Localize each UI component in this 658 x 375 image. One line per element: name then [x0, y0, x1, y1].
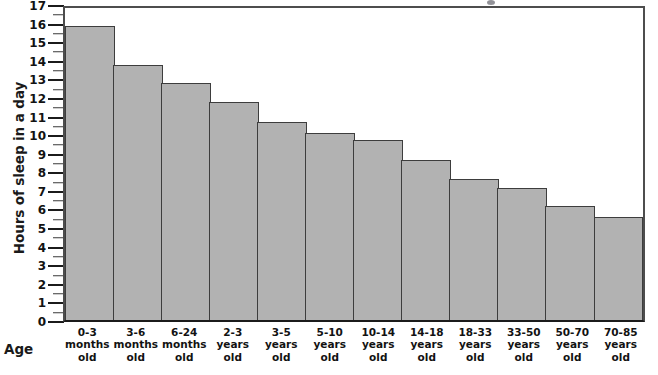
x-axis-category-label: 3-5yearsold	[257, 326, 306, 363]
x-axis-label-line: old	[258, 351, 305, 363]
x-axis-label-line: 70-85	[598, 326, 645, 338]
x-axis-label-line: 5-10	[307, 326, 354, 338]
x-axis-category-label: 0-3monthsold	[63, 326, 112, 363]
x-axis-category-label: 2-3yearsold	[209, 326, 258, 363]
x-axis-label-line: 6-24	[161, 326, 208, 338]
x-axis-label-line: 10-14	[355, 326, 402, 338]
y-axis-tick-label: 8	[24, 167, 46, 179]
x-axis-label-line: 2-3	[210, 326, 257, 338]
x-axis-label-line: 3-6	[113, 326, 160, 338]
y-axis-tick-label: 5	[24, 223, 46, 235]
y-axis-major-tick	[48, 265, 64, 267]
x-axis-label-line: years	[404, 338, 451, 350]
bar	[594, 217, 644, 320]
y-axis-major-tick	[48, 172, 64, 174]
y-axis-major-tick	[48, 321, 64, 323]
y-axis-major-tick	[48, 135, 64, 137]
x-axis-label-line: months	[64, 338, 111, 350]
y-axis-tick-label: 7	[24, 186, 46, 198]
x-axis-label-line: old	[307, 351, 354, 363]
bar	[353, 140, 403, 320]
cropped-title-artifact	[487, 0, 495, 5]
x-axis-label-line: years	[210, 338, 257, 350]
y-axis-major-tick	[48, 209, 64, 211]
bar	[305, 133, 355, 320]
x-axis-label-line: 18-33	[452, 326, 499, 338]
x-axis-label-line: old	[113, 351, 160, 363]
bar	[497, 188, 547, 320]
x-axis-label-line: old	[210, 351, 257, 363]
bar	[449, 179, 499, 320]
bar	[161, 83, 211, 320]
y-axis-tick-label: 13	[24, 74, 46, 86]
y-axis-tick-label: 16	[24, 19, 46, 31]
y-axis-major-tick	[48, 5, 64, 7]
y-axis-major-tick	[48, 98, 64, 100]
x-axis-label-line: old	[598, 351, 645, 363]
bar	[209, 102, 259, 320]
y-axis-major-tick	[48, 228, 64, 230]
x-axis-label-line: months	[161, 338, 208, 350]
x-axis-label-line: 14-18	[404, 326, 451, 338]
x-axis-label-line: 3-5	[258, 326, 305, 338]
y-axis-major-tick	[48, 61, 64, 63]
x-axis-label-line: 33-50	[501, 326, 548, 338]
y-axis-major-tick	[48, 284, 64, 286]
x-axis-category-label: 70-85yearsold	[597, 326, 646, 363]
plot-area	[63, 6, 645, 322]
x-axis-label-line: old	[355, 351, 402, 363]
x-axis-label-line: years	[598, 338, 645, 350]
y-axis-major-tick	[48, 42, 64, 44]
y-axis-major-tick	[48, 79, 64, 81]
sleep-hours-bar-chart: Hours of sleep in a day 0123456789101112…	[0, 0, 658, 375]
x-axis-label-line: old	[549, 351, 596, 363]
y-axis-tick-label: 0	[24, 316, 46, 328]
x-axis-label-line: old	[501, 351, 548, 363]
bar	[65, 26, 115, 320]
y-axis-major-tick	[48, 117, 64, 119]
bar	[545, 206, 595, 320]
y-axis-major-tick	[48, 154, 64, 156]
bar-series	[65, 8, 643, 320]
x-axis-label-line: years	[549, 338, 596, 350]
x-axis-label-line: old	[452, 351, 499, 363]
y-axis-major-tick	[48, 302, 64, 304]
x-axis-label-line: years	[258, 338, 305, 350]
y-axis-tick-label: 6	[24, 204, 46, 216]
y-axis-tick-label: 4	[24, 242, 46, 254]
y-axis-tick-label: 9	[24, 149, 46, 161]
x-axis-label-line: old	[64, 351, 111, 363]
x-axis-label-line: old	[404, 351, 451, 363]
x-axis-category-label: 50-70yearsold	[548, 326, 597, 363]
y-axis-tick-label: 2	[24, 279, 46, 291]
y-axis-tick-label: 10	[24, 130, 46, 142]
y-axis-tick-marks	[48, 6, 64, 322]
x-axis-label-line: years	[355, 338, 402, 350]
bar	[113, 65, 163, 320]
x-axis-label-line: years	[307, 338, 354, 350]
y-axis-tick-label: 1	[24, 297, 46, 309]
x-axis-category-label: 6-24monthsold	[160, 326, 209, 363]
y-axis-tick-label: 14	[24, 56, 46, 68]
x-axis-label-line: years	[452, 338, 499, 350]
x-axis-label-line: years	[501, 338, 548, 350]
x-axis-title: Age	[4, 341, 33, 357]
y-axis-tick-label: 3	[24, 260, 46, 272]
y-axis-tick-label: 17	[24, 0, 46, 12]
x-axis-category-label: 5-10yearsold	[306, 326, 355, 363]
x-axis-category-label: 10-14yearsold	[354, 326, 403, 363]
y-axis-major-tick	[48, 24, 64, 26]
x-axis-category-labels: 0-3monthsold3-6monthsold6-24monthsold2-3…	[63, 326, 645, 363]
y-axis-tick-label: 11	[24, 112, 46, 124]
y-axis-major-tick	[48, 191, 64, 193]
y-axis-major-tick	[48, 247, 64, 249]
x-axis-label-line: 0-3	[64, 326, 111, 338]
bar	[401, 160, 451, 320]
x-axis-label-line: old	[161, 351, 208, 363]
y-axis-tick-labels: 01234567891011121314151617	[24, 6, 46, 322]
x-axis-category-label: 18-33yearsold	[451, 326, 500, 363]
x-axis-category-label: 14-18yearsold	[403, 326, 452, 363]
x-axis-category-label: 33-50yearsold	[500, 326, 549, 363]
x-axis-category-label: 3-6monthsold	[112, 326, 161, 363]
y-axis-tick-label: 15	[24, 37, 46, 49]
